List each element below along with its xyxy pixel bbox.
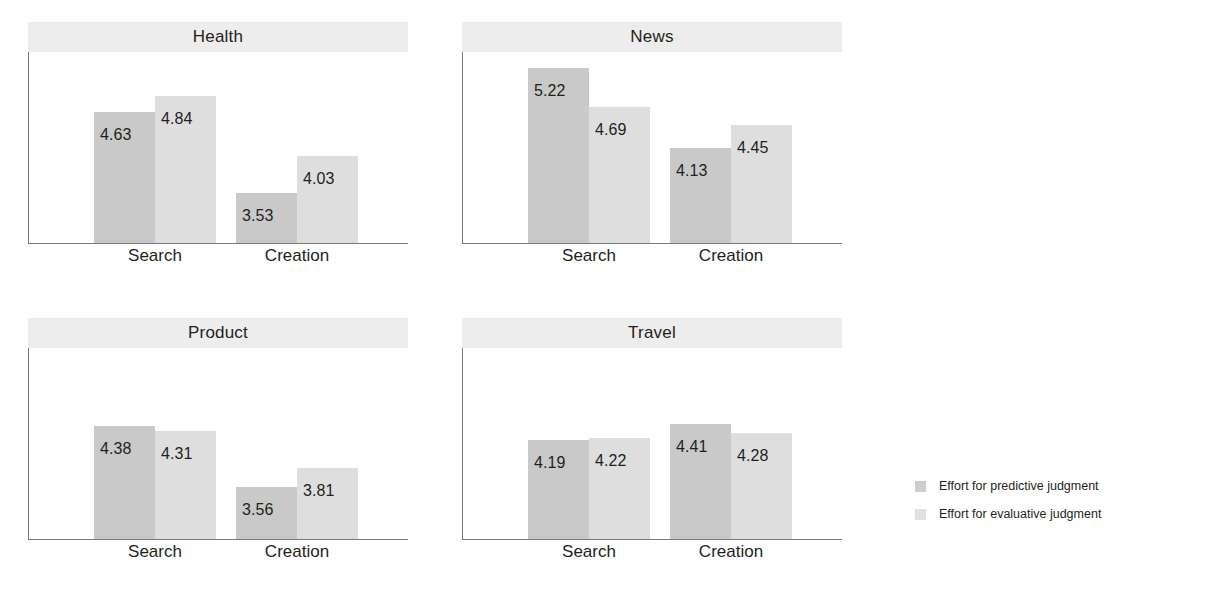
bar-value-label: 4.45	[737, 139, 769, 157]
facet-title: Travel	[628, 323, 676, 343]
facet-news: News5.224.694.134.45SearchCreation	[462, 22, 862, 287]
bar-value-label: 4.13	[676, 162, 708, 180]
x-axis-tick-label: Creation	[699, 542, 763, 562]
bar-value-label: 3.81	[303, 482, 335, 500]
x-axis-line	[28, 243, 408, 244]
x-axis-tick-label: Creation	[265, 542, 329, 562]
x-axis-tick-labels: SearchCreation	[28, 542, 408, 570]
plot-panel: 4.194.224.414.28	[462, 348, 842, 540]
facet-title-strip: Product	[28, 318, 408, 348]
bar-value-label: 4.38	[100, 440, 132, 458]
x-axis-tick-label: Creation	[699, 246, 763, 266]
facet-title-strip: Health	[28, 22, 408, 52]
facet-title-strip: News	[462, 22, 842, 52]
legend-label-evaluative: Effort for evaluative judgment	[939, 507, 1101, 521]
facet-travel: Travel4.194.224.414.28SearchCreation	[462, 318, 862, 583]
plot-panel: 4.384.313.563.81	[28, 348, 408, 540]
facet-title: News	[630, 27, 673, 47]
plot-area: 4.194.224.414.28	[463, 348, 842, 539]
facet-product: Product4.384.313.563.81SearchCreation	[28, 318, 428, 583]
bar-value-label: 3.56	[242, 501, 274, 519]
x-axis-tick-labels: SearchCreation	[462, 246, 842, 274]
bar-value-label: 5.22	[534, 82, 566, 100]
bar-value-label: 4.84	[161, 110, 193, 128]
legend-swatch-icon-predictive	[915, 481, 926, 492]
x-axis-line	[462, 539, 842, 540]
x-axis-tick-label: Search	[128, 542, 182, 562]
facet-title: Health	[193, 27, 243, 47]
bar-value-label: 4.22	[595, 452, 627, 470]
legend-label-predictive: Effort for predictive judgment	[939, 479, 1099, 493]
bar-value-label: 4.28	[737, 447, 769, 465]
x-axis-line	[462, 243, 842, 244]
legend-item-predictive: Effort for predictive judgment	[915, 472, 1205, 500]
facet-title: Product	[188, 323, 248, 343]
plot-panel: 4.634.843.534.03	[28, 52, 408, 244]
plot-area: 5.224.694.134.45	[463, 52, 842, 243]
x-axis-line	[28, 539, 408, 540]
chart-legend: Effort for predictive judgment Effort fo…	[915, 472, 1205, 528]
bar-value-label: 4.63	[100, 126, 132, 144]
plot-area: 4.634.843.534.03	[29, 52, 408, 243]
x-axis-tick-label: Search	[128, 246, 182, 266]
bar	[297, 468, 358, 539]
facet-health: Health4.634.843.534.03SearchCreation	[28, 22, 428, 287]
bar-value-label: 4.03	[303, 170, 335, 188]
bar-value-label: 3.53	[242, 207, 274, 225]
bar-value-label: 4.31	[161, 445, 193, 463]
x-axis-tick-labels: SearchCreation	[462, 542, 842, 570]
x-axis-tick-label: Search	[562, 246, 616, 266]
facet-title-strip: Travel	[462, 318, 842, 348]
plot-panel: 5.224.694.134.45	[462, 52, 842, 244]
bar-value-label: 4.41	[676, 438, 708, 456]
facet-grid: Health4.634.843.534.03SearchCreationNews…	[0, 0, 900, 609]
bar-value-label: 4.19	[534, 454, 566, 472]
legend-item-evaluative: Effort for evaluative judgment	[915, 500, 1205, 528]
x-axis-tick-label: Search	[562, 542, 616, 562]
bar-value-label: 4.69	[595, 121, 627, 139]
plot-area: 4.384.313.563.81	[29, 348, 408, 539]
legend-swatch-icon-evaluative	[915, 509, 926, 520]
x-axis-tick-labels: SearchCreation	[28, 246, 408, 274]
x-axis-tick-label: Creation	[265, 246, 329, 266]
